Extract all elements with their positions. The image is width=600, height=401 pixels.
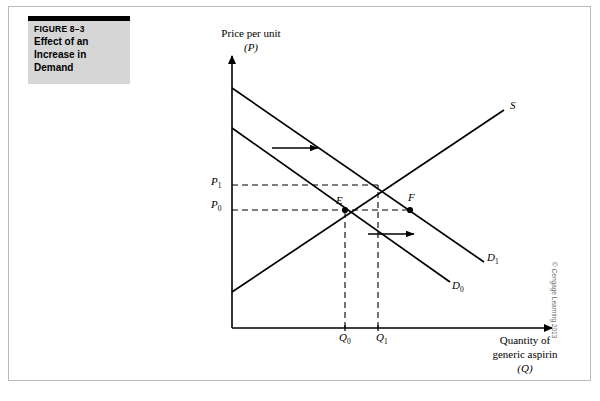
tick-label-q1-sub: 1 xyxy=(384,337,388,346)
tick-label-q0-sub: 0 xyxy=(347,337,351,346)
curve-label-d0-sub: 0 xyxy=(460,285,464,294)
tick-label-p0-base: P xyxy=(211,198,218,210)
curve-label-d0-base: D xyxy=(452,279,460,291)
figure-page: FIGURE 8–3 Effect of an Increase in Dema… xyxy=(0,0,600,401)
tick-label-q0-base: Q xyxy=(339,331,347,343)
tick-label-q1: Q1 xyxy=(376,331,388,346)
tick-label-p0: P0 xyxy=(211,198,221,213)
y-axis-label-line1: Price per unit xyxy=(221,27,280,39)
point-label-e: E xyxy=(336,194,343,206)
tick-label-p1-sub: 1 xyxy=(218,181,222,190)
tick-label-p0-sub: 0 xyxy=(218,204,222,213)
supply-curve xyxy=(232,110,504,292)
point-label-f: F xyxy=(408,191,415,203)
demand-curve-shifted xyxy=(232,88,484,262)
x-axis-label: Quantity of generic aspirin (Q) xyxy=(470,333,580,375)
curve-label-d1-sub: 1 xyxy=(495,257,499,266)
curve-label-d1-base: D xyxy=(487,251,495,263)
point-f-marker xyxy=(407,207,413,213)
point-e-marker xyxy=(342,207,348,213)
tick-label-p1-base: P xyxy=(211,175,218,187)
copyright-credit: © Cengage Learning 2013 xyxy=(551,262,558,338)
tick-label-q1-base: Q xyxy=(376,331,384,343)
tick-label-q0: Q0 xyxy=(339,331,351,346)
y-axis-label-line2: (P) xyxy=(244,41,258,53)
x-axis-label-line3: (Q) xyxy=(517,362,532,374)
curve-label-demand-original: D0 xyxy=(452,279,464,294)
curve-label-demand-shifted: D1 xyxy=(487,251,499,266)
x-axis-label-line1: Quantity of xyxy=(500,334,550,346)
x-axis-label-line2: generic aspirin xyxy=(492,348,557,360)
curve-label-supply: S xyxy=(510,99,516,111)
tick-label-p1: P1 xyxy=(211,175,221,190)
y-axis-label: Price per unit (P) xyxy=(196,26,306,54)
